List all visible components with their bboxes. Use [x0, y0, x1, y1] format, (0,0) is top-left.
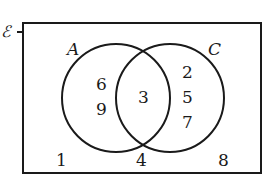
a-only-element: 6: [96, 74, 107, 94]
outside-element: 4: [136, 150, 147, 170]
c-only-element: 2: [182, 62, 193, 82]
universal-label: ℰ: [1, 22, 13, 41]
outside-element: 1: [56, 150, 67, 170]
a-only-element: 9: [96, 99, 107, 119]
set-c-label: C: [208, 39, 221, 59]
set-a-label: A: [65, 39, 79, 59]
outside-element: 8: [218, 150, 229, 170]
venn-diagram: ℰ A C 6 9 3 2 5 7 1 4 8: [0, 0, 271, 180]
c-only-element: 7: [182, 112, 193, 132]
intersection-element: 3: [138, 87, 149, 107]
c-only-element: 5: [182, 87, 193, 107]
